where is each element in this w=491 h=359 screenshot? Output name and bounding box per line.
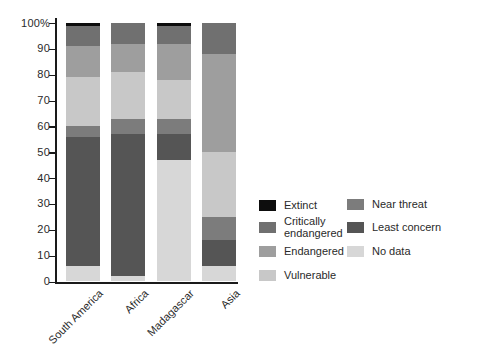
bar-asia-segment-near-threat <box>202 217 236 240</box>
y-tick-label: 80 <box>10 68 50 81</box>
x-category-label-asia: Asia <box>218 287 242 311</box>
legend-item-least-concern: Least concern <box>347 222 441 234</box>
bar-asia-segment-no-data <box>202 266 236 282</box>
y-tick-label: 0 <box>10 275 50 288</box>
legend-item-vulnerable: Vulnerable <box>259 270 336 282</box>
bar-asia <box>202 23 236 282</box>
y-tick-label: 60 <box>10 120 50 133</box>
bar-south-america-segment-vulnerable <box>66 77 100 126</box>
legend-swatch-least-concern <box>347 222 364 233</box>
bar-madagascar <box>157 23 191 282</box>
legend-swatch-extinct <box>259 200 276 211</box>
chart-figure: 0102030405060708090100%South AmericaAfri… <box>0 0 491 359</box>
legend-label-endangered: Endangered <box>284 246 344 258</box>
y-tick-label: 30 <box>10 197 50 210</box>
legend-label-near-threat: Near threat <box>372 199 427 211</box>
y-tick-label: 40 <box>10 172 50 185</box>
bar-africa-segment-no-data <box>111 276 145 281</box>
legend-item-no-data: No data <box>347 246 411 258</box>
y-tick-label: 10 <box>10 249 50 262</box>
bar-africa-segment-vulnerable <box>111 72 145 119</box>
x-category-label-madagascar: Madagascar <box>145 287 196 338</box>
bar-madagascar-segment-vulnerable <box>157 80 191 119</box>
bar-madagascar-segment-critically-endangered <box>157 26 191 44</box>
bar-south-america-segment-endangered <box>66 46 100 77</box>
bar-africa-segment-least-concern <box>111 134 145 276</box>
legend-label-least-concern: Least concern <box>372 222 441 234</box>
y-tick-label: 20 <box>10 223 50 236</box>
bar-africa-segment-near-threat <box>111 119 145 135</box>
legend-swatch-endangered <box>259 246 276 257</box>
legend-item-extinct: Extinct <box>259 200 317 212</box>
bar-africa-segment-critically-endangered <box>111 23 145 44</box>
bar-madagascar-segment-endangered <box>157 44 191 80</box>
legend-label-vulnerable: Vulnerable <box>284 270 336 282</box>
legend-swatch-near-threat <box>347 199 364 210</box>
y-axis-line <box>55 18 57 284</box>
bar-south-america-segment-no-data <box>66 266 100 282</box>
bar-south-america <box>66 23 100 282</box>
bar-madagascar-segment-least-concern <box>157 134 191 160</box>
x-category-label-south-america: South America <box>46 287 105 346</box>
bar-africa <box>111 23 145 282</box>
legend-item-endangered: Endangered <box>259 246 344 258</box>
legend-label-no-data: No data <box>372 246 411 258</box>
bar-asia-segment-endangered <box>202 54 236 152</box>
bar-asia-segment-critically-endangered <box>202 23 236 54</box>
bar-africa-segment-endangered <box>111 44 145 72</box>
y-tick-label: 70 <box>10 94 50 107</box>
bar-asia-segment-vulnerable <box>202 152 236 217</box>
y-tick-label: 100% <box>10 17 50 30</box>
bar-madagascar-segment-near-threat <box>157 119 191 135</box>
bar-asia-segment-least-concern <box>202 240 236 266</box>
y-tick-label: 50 <box>10 146 50 159</box>
bar-south-america-segment-critically-endangered <box>66 26 100 47</box>
y-tick-label: 90 <box>10 42 50 55</box>
legend-swatch-critically-endangered <box>259 222 276 233</box>
legend-swatch-no-data <box>347 246 364 257</box>
bar-south-america-segment-near-threat <box>66 126 100 136</box>
legend-swatch-vulnerable <box>259 270 276 281</box>
plot-area: 0102030405060708090100%South AmericaAfri… <box>0 0 491 359</box>
x-category-label-africa: Africa <box>122 287 150 315</box>
bar-south-america-segment-least-concern <box>66 137 100 266</box>
bar-madagascar-segment-no-data <box>157 160 191 281</box>
x-axis-line <box>55 282 238 284</box>
legend-item-near-threat: Near threat <box>347 199 427 211</box>
legend-label-extinct: Extinct <box>284 200 317 212</box>
